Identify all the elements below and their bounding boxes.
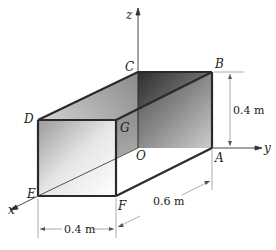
point-f-label: F: [117, 199, 127, 213]
front-face-DGFE: [38, 120, 116, 196]
z-axis-label: z: [125, 8, 133, 22]
point-b-label: B: [214, 57, 224, 71]
point-d-label: D: [23, 112, 34, 126]
point-o-label: O: [136, 149, 146, 163]
point-c-label: C: [125, 60, 134, 74]
length-dimension: 0.6 m: [153, 195, 185, 208]
box-diagram: z y x C B D G O A E F 0.4 m 0.4 m 0.6 m: [0, 0, 276, 250]
point-a-label: A: [214, 151, 224, 165]
x-axis-label: x: [8, 203, 15, 217]
point-g-label: G: [120, 121, 130, 135]
point-e-label: E: [26, 187, 36, 201]
y-axis-label: y: [263, 141, 271, 155]
width-dimension: 0.4 m: [64, 223, 96, 236]
height-dimension: 0.4 m: [233, 104, 265, 117]
y-axis-arrow: [255, 146, 262, 150]
z-axis-arrow: [136, 8, 140, 15]
